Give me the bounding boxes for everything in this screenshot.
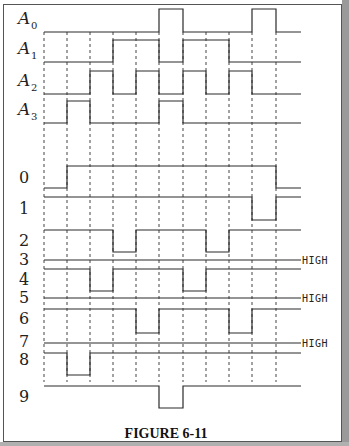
- output-label: 8: [19, 350, 29, 369]
- output-label: 7: [19, 332, 29, 351]
- signal-label: A: [16, 8, 30, 28]
- high-label: HIGH: [302, 293, 328, 304]
- output-label: 1: [19, 199, 29, 218]
- frame-border: [4, 5, 342, 442]
- output-label: 2: [19, 231, 29, 250]
- high-label: HIGH: [302, 338, 328, 349]
- signal-label: A: [16, 38, 30, 58]
- frame-shadow-bottom: [0, 442, 349, 446]
- output-label: 6: [19, 309, 29, 328]
- output-label: 4: [19, 270, 29, 289]
- signal-label-subscript: 3: [31, 111, 37, 122]
- output-label: 0: [19, 168, 29, 187]
- output-label: 9: [19, 387, 29, 406]
- figure-frame: A0A1A2A3 0123HIGH45HIGH67HIGH89 FIGURE 6…: [0, 0, 349, 446]
- timing-diagram: A0A1A2A3 0123HIGH45HIGH67HIGH89 FIGURE 6…: [0, 0, 349, 446]
- signal-label: A: [16, 99, 30, 119]
- signal-label: A: [16, 70, 30, 90]
- signal-label-subscript: 1: [31, 50, 37, 61]
- output-label: 5: [19, 288, 29, 307]
- figure-caption: FIGURE 6-11: [125, 426, 208, 441]
- signal-label-subscript: 0: [31, 20, 37, 31]
- high-label: HIGH: [302, 255, 328, 266]
- frame-shadow: [342, 0, 349, 446]
- output-label: 3: [19, 250, 29, 269]
- signal-label-subscript: 2: [31, 82, 37, 93]
